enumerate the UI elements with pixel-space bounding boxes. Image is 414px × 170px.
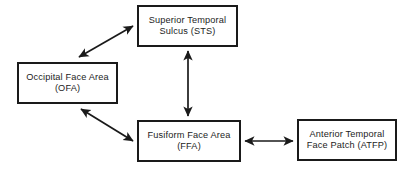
node-superior-temporal-sulcus: Superior Temporal Sulcus (STS) (137, 5, 238, 47)
arrow-ofa-sts (79, 26, 133, 57)
node-label-line1: Occipital Face Area (26, 72, 109, 84)
diagram-canvas: Superior Temporal Sulcus (STS) Occipital… (0, 0, 414, 170)
node-label-line2: (OFA) (55, 83, 80, 95)
node-label-line2: (FFA) (177, 141, 201, 153)
node-label-line1: Anterior Temporal (310, 129, 385, 141)
node-label-line2: Sulcus (STS) (160, 26, 216, 38)
arrow-ofa-ffa (81, 109, 133, 141)
node-label-line1: Superior Temporal (149, 15, 226, 27)
node-label-line2: Face Patch (ATFP) (307, 140, 388, 152)
node-label-line1: Fusiform Face Area (148, 130, 231, 142)
node-occipital-face-area: Occipital Face Area (OFA) (17, 62, 118, 104)
node-anterior-temporal-face-patch: Anterior Temporal Face Patch (ATFP) (297, 119, 397, 161)
node-fusiform-face-area: Fusiform Face Area (FFA) (137, 120, 241, 162)
